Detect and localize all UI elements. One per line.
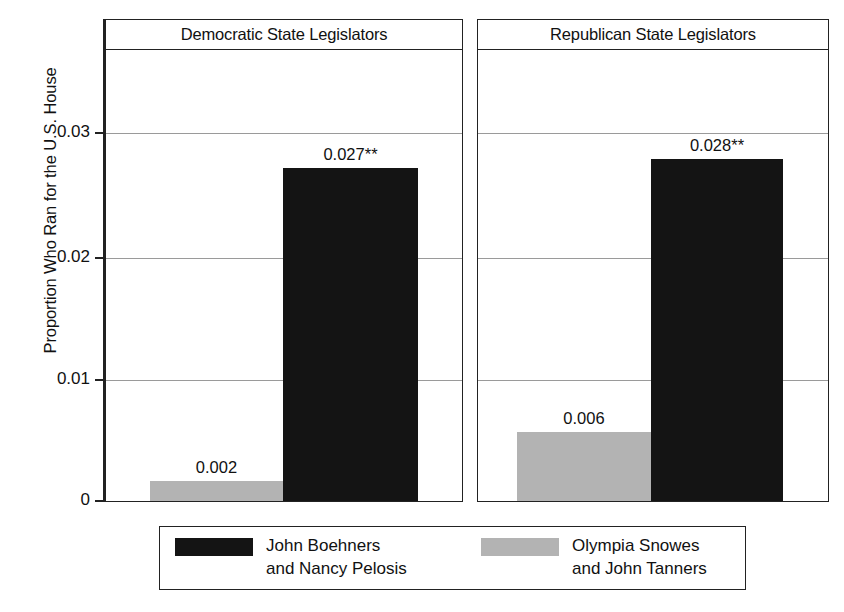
panel-democratic: Democratic State Legislators 0.002 0.027… [105, 19, 463, 502]
legend-entry-snowe-tanner: Olympia Snowes and John Tanners [481, 534, 707, 580]
legend: John Boehners and Nancy Pelosis Olympia … [159, 526, 746, 590]
bar-value-label-light-republican: 0.006 [517, 409, 651, 428]
y-axis-title-text: Proportion Who Ran for the U.S. House [41, 67, 60, 353]
plot-area-democratic: 0.002 0.027** [106, 50, 462, 501]
legend-label-line1: Olympia Snowes [572, 534, 707, 557]
y-tick-label-0-wrap: 0 [28, 490, 90, 510]
bar-value-label-dark-republican: 0.028** [651, 136, 783, 155]
plot-area-republican: 0.006 0.028** [478, 50, 828, 501]
bar-light-democratic [150, 481, 283, 501]
legend-label-snowe-tanner: Olympia Snowes and John Tanners [572, 534, 707, 580]
bar-dark-democratic [283, 168, 418, 501]
legend-label-line1: John Boehners [266, 534, 407, 557]
panel-title-democratic: Democratic State Legislators [181, 25, 388, 44]
y-tick-label-0.01-wrap: 0.01 [28, 369, 90, 389]
legend-label-boehner-pelosi: John Boehners and Nancy Pelosis [266, 534, 407, 580]
legend-swatch-dark-icon [175, 538, 253, 556]
y-tick-mark-0 [95, 500, 105, 502]
y-tick-mark-0.03 [95, 132, 105, 134]
legend-label-line2: and Nancy Pelosis [266, 557, 407, 580]
y-tick-label-0.03: 0.03 [30, 122, 90, 142]
bar-chart-figure: Proportion Who Ran for the U.S. House 0.… [0, 0, 844, 612]
y-axis-title: Proportion Who Ran for the U.S. House [41, 80, 60, 540]
legend-label-line2: and John Tanners [572, 557, 707, 580]
y-tick-mark-0.01 [95, 379, 105, 381]
legend-entry-boehner-pelosi: John Boehners and Nancy Pelosis [175, 534, 407, 580]
legend-swatch-light-icon [481, 538, 559, 556]
y-tick-label-0.02: 0.02 [30, 247, 90, 267]
panel-header-republican: Republican State Legislators [478, 20, 828, 50]
bar-value-label-dark-democratic: 0.027** [283, 145, 418, 164]
y-tick-label-0.01: 0.01 [30, 369, 90, 389]
bar-dark-republican [651, 159, 783, 501]
y-tick-label-0.02-wrap: 0.02 [28, 247, 90, 267]
gridline-0.03 [478, 133, 828, 134]
bar-value-label-light-democratic: 0.002 [150, 458, 283, 477]
panel-header-democratic: Democratic State Legislators [106, 20, 462, 50]
panel-republican: Republican State Legislators 0.006 0.028… [477, 19, 829, 502]
gridline-0.03 [106, 133, 462, 134]
y-tick-mark-0.02 [95, 257, 105, 259]
y-tick-label-0.03-wrap: 0.03 [28, 122, 90, 142]
panel-title-republican: Republican State Legislators [550, 25, 756, 44]
bar-light-republican [517, 432, 651, 501]
y-tick-label-0: 0 [30, 490, 90, 510]
